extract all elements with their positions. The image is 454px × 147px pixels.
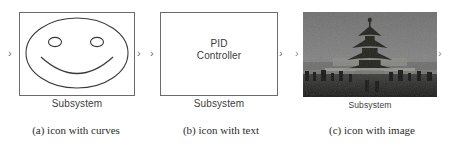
- block-label-subsystem: Subsystem: [19, 98, 135, 110]
- output-port-arrow-icon: ›: [279, 48, 283, 59]
- caption-panel-a: (a) icon with curves: [0, 124, 152, 137]
- output-port-arrow-icon: ›: [137, 48, 141, 59]
- block-icon-text: PID Controller: [160, 38, 278, 62]
- caption-panel-c: (c) icon with image: [290, 124, 454, 137]
- block-label-subsystem: Subsystem: [303, 99, 437, 111]
- caption-panel-b: (b) icon with text: [146, 124, 296, 137]
- block-icon-text-line-2: Controller: [160, 50, 278, 62]
- subsystem-block-image[interactable]: [303, 12, 437, 97]
- input-port-arrow-icon: ›: [8, 48, 12, 59]
- input-port-arrow-icon: ›: [295, 48, 299, 59]
- figure-root: › › Subsystem (a) icon with curves › › P…: [0, 0, 454, 147]
- block-icon-text-line-1: PID: [160, 38, 278, 50]
- smiley-face-icon: [19, 12, 135, 96]
- temple-of-heaven-pagoda-photo: [303, 12, 437, 97]
- figure-panel-c: › ›: [290, 0, 454, 147]
- figure-panel-b: › › PID Controller Subsystem (b) icon wi…: [146, 0, 296, 147]
- output-port-arrow-icon: ›: [438, 48, 442, 59]
- input-port-arrow-icon: ›: [150, 48, 154, 59]
- block-label-subsystem: Subsystem: [160, 98, 278, 110]
- figure-panel-a: › › Subsystem (a) icon with curves: [0, 0, 152, 147]
